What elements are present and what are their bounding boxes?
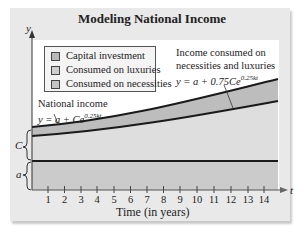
tick-label: 9: [177, 194, 182, 205]
national-income-annotation: National income y = a + Ce0.25kt: [38, 97, 108, 126]
legend-label: Capital investment: [66, 49, 145, 63]
tick-label: 3: [78, 194, 83, 205]
legend-item-luxuries: Consumed on luxuries: [51, 63, 155, 77]
swatch-necessities-icon: [51, 80, 60, 89]
annotation-text: National income: [38, 97, 108, 110]
brace-C-label: C: [15, 139, 22, 151]
x-axis-title: Time (in years): [116, 205, 190, 220]
tick-label: 1: [45, 194, 50, 205]
brace-a: [23, 162, 31, 190]
brace-C: [23, 130, 31, 160]
annotation-text: necessities and luxuries: [176, 59, 275, 72]
legend: Capital investment Consumed on luxuries …: [44, 46, 156, 92]
tick-label: 14: [259, 194, 270, 205]
annotation-text: Income consumed on: [176, 46, 275, 59]
legend-item-capital: Capital investment: [51, 49, 155, 63]
t-axis-label: t: [290, 184, 293, 196]
legend-label: Consumed on luxuries: [66, 63, 161, 77]
tick-label: 4: [94, 194, 99, 205]
tick-label: 12: [226, 194, 237, 205]
tick-label: 6: [128, 194, 133, 205]
legend-label: Consumed on necessities: [66, 77, 172, 91]
tick-label: 11: [209, 194, 219, 205]
tick-label: 13: [243, 194, 254, 205]
consumption-annotation: Income consumed on necessities and luxur…: [176, 46, 275, 88]
capital-band: [32, 161, 278, 190]
tick-label: 2: [62, 194, 67, 205]
swatch-capital-icon: [51, 52, 60, 61]
tick-label: 5: [111, 194, 116, 205]
legend-item-necessities: Consumed on necessities: [51, 77, 155, 91]
y-axis-label: y: [26, 22, 31, 34]
tick-label: 7: [144, 194, 149, 205]
brace-a-label: a: [16, 168, 22, 180]
annotation-formula: y = a + 0.75Ce0.25kt: [176, 72, 275, 88]
swatch-luxuries-icon: [51, 66, 60, 75]
tick-label: 10: [192, 194, 203, 205]
tick-label: 8: [161, 194, 166, 205]
annotation-formula: y = a + Ce0.25kt: [38, 110, 108, 126]
x-axis-arrow: [280, 187, 288, 193]
